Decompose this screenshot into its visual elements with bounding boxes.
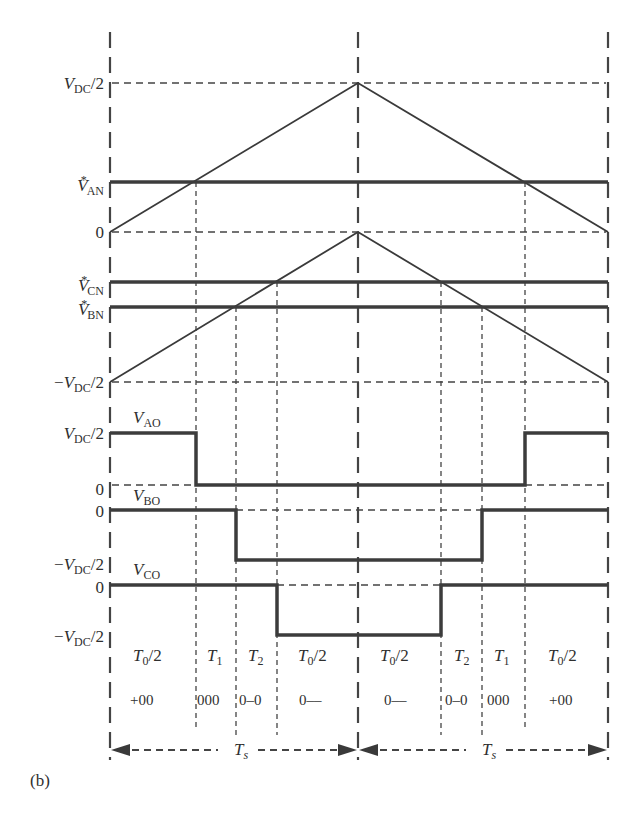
sym: V — [64, 555, 74, 574]
sub: DC — [74, 563, 91, 577]
interval-5-state: 0–0 — [445, 693, 468, 708]
sym: V — [133, 560, 143, 579]
prefix: − — [54, 373, 64, 392]
sym: V — [64, 627, 74, 646]
label-vao-zero: 0 — [4, 481, 104, 498]
suffix: /2 — [395, 646, 408, 665]
interval-7-state: +00 — [549, 693, 572, 708]
sub: 1 — [503, 654, 509, 668]
suffix: /2 — [91, 555, 104, 574]
interval-6-state: 000 — [487, 693, 510, 708]
label-neg-vdc-half-carrier: −VDC/2 — [4, 374, 104, 394]
label-vao-high: VDC/2 — [4, 425, 104, 445]
label-vcn-ref: V*CN — [4, 274, 104, 297]
prefix: − — [54, 627, 64, 646]
sub: CO — [143, 568, 160, 582]
sub: BO — [143, 494, 160, 508]
suffix: /2 — [563, 646, 576, 665]
sym: V — [64, 424, 74, 443]
label-zero-carrier: 0 — [4, 224, 104, 241]
label-vco-zero: 0 — [4, 579, 104, 596]
sub: 1 — [216, 654, 222, 668]
label-vdc-half-top: VDC/2 — [4, 75, 104, 95]
sub: s — [243, 748, 248, 762]
interval-2-state: 0–0 — [239, 693, 262, 708]
interval-3-label: T0/2 — [298, 647, 327, 667]
sub: BN — [87, 308, 104, 322]
label-vbo-low: −VDC/2 — [4, 556, 104, 576]
sub: DC — [74, 381, 91, 395]
interval-0-label: T0/2 — [133, 647, 162, 667]
label-vao: VAO — [133, 409, 161, 429]
interval-6-label: T1 — [494, 647, 509, 667]
sub: CN — [87, 284, 104, 298]
interval-5-label: T2 — [454, 647, 469, 667]
interval-2-label: T2 — [248, 647, 263, 667]
label-vbo-zero: 0 — [4, 503, 104, 520]
label-vbn-ref: V*BN — [4, 298, 104, 321]
sub: DC — [74, 432, 91, 446]
interval-0-state: +00 — [130, 693, 153, 708]
sub: DC — [74, 82, 91, 96]
switching-instant-lines — [196, 182, 525, 735]
sub: s — [491, 748, 496, 762]
sub: AO — [143, 416, 160, 430]
label-vbo: VBO — [133, 487, 160, 507]
suffix: /2 — [91, 373, 104, 392]
sub: 2 — [463, 654, 469, 668]
suffix: /2 — [91, 424, 104, 443]
suffix: /2 — [91, 74, 104, 93]
sub: 2 — [257, 654, 263, 668]
suffix: /2 — [313, 646, 326, 665]
interval-3-state: 0–– — [299, 693, 322, 708]
interval-1-state: 000 — [197, 693, 220, 708]
interval-4-label: T0/2 — [380, 647, 409, 667]
suffix: /2 — [91, 627, 104, 646]
frame-verticals — [110, 32, 608, 760]
suffix: /2 — [148, 646, 161, 665]
sym: V — [133, 408, 143, 427]
sym: V — [133, 486, 143, 505]
interval-7-label: T0/2 — [548, 647, 577, 667]
sub: AN — [87, 184, 104, 198]
interval-4-state: 0–– — [384, 693, 407, 708]
period-label-1: Ts — [231, 741, 251, 761]
sym: V — [64, 74, 74, 93]
label-vco-low: −VDC/2 — [4, 628, 104, 648]
label-van-ref: V*AN — [4, 174, 104, 197]
period-label-2: Ts — [479, 741, 499, 761]
prefix: − — [54, 555, 64, 574]
interval-1-label: T1 — [207, 647, 222, 667]
label-vco: VCO — [133, 561, 160, 581]
sym: V — [64, 373, 74, 392]
sub: DC — [74, 635, 91, 649]
panel-label: (b) — [30, 772, 50, 789]
